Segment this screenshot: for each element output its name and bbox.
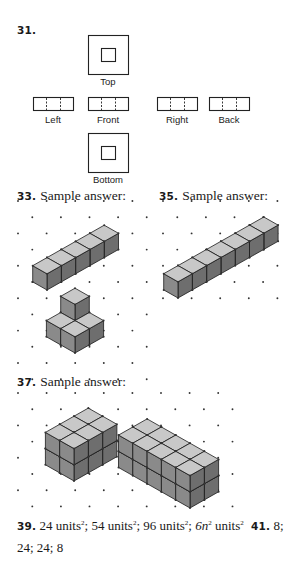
exercise-39-answer: 39. 24 units2; 54 units2; 96 units2; 6n2…: [17, 518, 284, 534]
answer-39-d: 6n2 units2: [195, 518, 244, 533]
exercise-37-number: 37.: [17, 376, 36, 388]
answer-41-line2: 24; 24; 8: [17, 540, 63, 556]
answer-41-line1: 8;: [273, 518, 283, 533]
answer-39-c: 96 units2;: [143, 518, 192, 533]
answer-39-b: 54 units2;: [91, 518, 140, 533]
exercise-37-label: Sample answer:: [40, 374, 126, 389]
isometric-drawings: [0, 0, 286, 562]
exercise-39-number: 39.: [17, 520, 36, 532]
answer-39-a: 24 units2;: [39, 518, 88, 533]
exercise-41-number: 41.: [251, 520, 270, 532]
exercise-37-heading: 37. Sample answer:: [17, 372, 126, 390]
